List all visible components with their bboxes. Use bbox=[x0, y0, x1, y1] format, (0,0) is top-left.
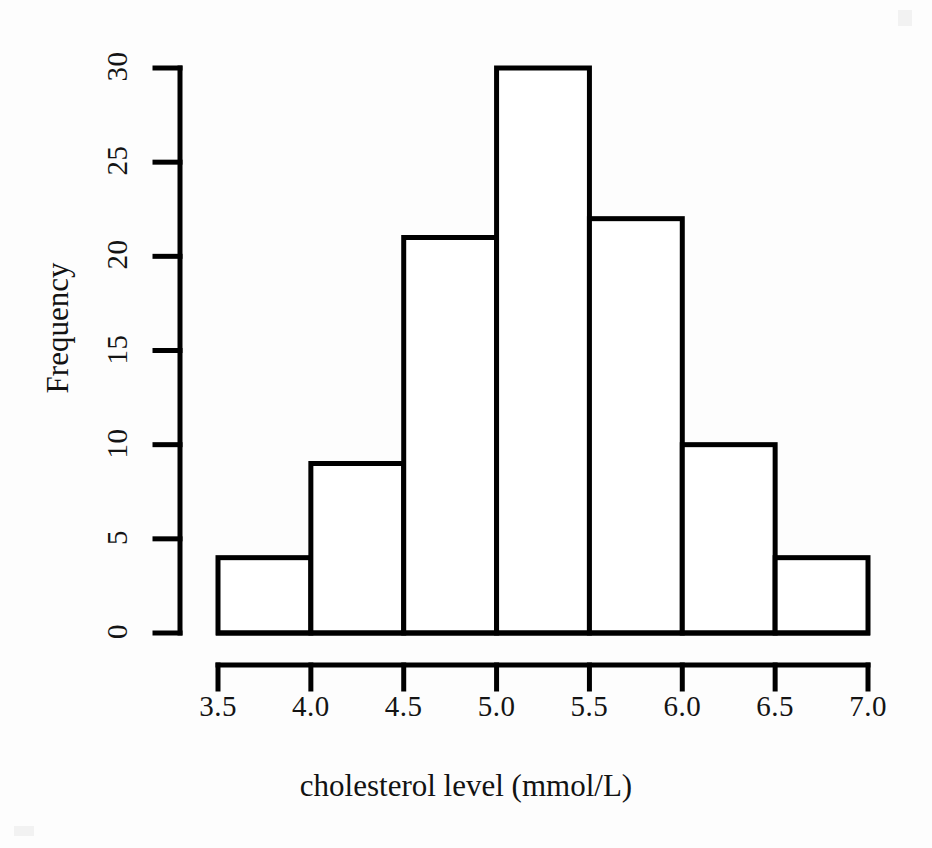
histogram-bar bbox=[311, 464, 404, 634]
y-tick-label: 15 bbox=[101, 319, 134, 379]
frequency-axis bbox=[155, 68, 180, 633]
x-tick-label: 5.5 bbox=[549, 690, 629, 723]
y-tick-label: 20 bbox=[101, 225, 134, 285]
x-tick-label: 4.0 bbox=[271, 690, 351, 723]
x-tick-label: 3.5 bbox=[178, 690, 258, 723]
x-tick-label: 4.5 bbox=[364, 690, 444, 723]
histogram-bars bbox=[216, 68, 870, 633]
y-axis-title: Frequency bbox=[40, 228, 76, 428]
y-tick-label: 25 bbox=[101, 131, 134, 191]
plot-area: 051015202530 3.54.04.55.05.56.06.57.0 Fr… bbox=[0, 0, 932, 848]
histogram-bar bbox=[775, 558, 868, 633]
y-tick-label: 10 bbox=[101, 413, 134, 473]
histogram-bar bbox=[497, 68, 590, 633]
histogram-figure: 051015202530 3.54.04.55.05.56.06.57.0 Fr… bbox=[0, 0, 932, 848]
histogram-bar bbox=[589, 219, 682, 633]
histogram-bar bbox=[682, 445, 775, 633]
y-tick-label: 5 bbox=[101, 507, 134, 567]
histogram-bar bbox=[218, 558, 311, 633]
y-tick-label: 0 bbox=[101, 602, 134, 662]
x-axis-title: cholesterol level (mmol/L) bbox=[0, 768, 932, 804]
cholesterol-axis bbox=[218, 665, 868, 689]
histogram-bar bbox=[404, 238, 497, 634]
x-tick-label: 7.0 bbox=[828, 690, 908, 723]
x-tick-label: 6.0 bbox=[642, 690, 722, 723]
x-tick-label: 5.0 bbox=[457, 690, 537, 723]
y-tick-label: 30 bbox=[101, 37, 134, 97]
x-tick-label: 6.5 bbox=[735, 690, 815, 723]
